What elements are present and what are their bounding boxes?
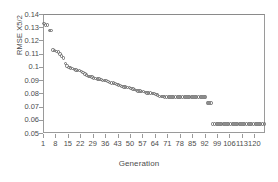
x-tick-mark xyxy=(254,134,255,138)
x-tick-mark xyxy=(205,134,206,138)
x-tick-mark xyxy=(217,134,218,138)
x-tick-mark xyxy=(242,134,243,138)
x-tick-mark xyxy=(167,134,168,138)
data-point xyxy=(62,56,65,59)
x-tick-mark xyxy=(155,134,156,138)
x-tick-mark xyxy=(142,134,143,138)
x-tick-mark xyxy=(180,134,181,138)
y-tick-label: 0.08 xyxy=(5,89,39,98)
y-tick-mark xyxy=(39,67,43,68)
y-tick-mark xyxy=(39,27,43,28)
y-tick-mark xyxy=(39,120,43,121)
y-tick-mark xyxy=(39,14,43,15)
data-point xyxy=(46,23,49,26)
y-tick-label: 0.12 xyxy=(5,36,39,45)
y-tick-mark xyxy=(39,93,43,94)
y-tick-label: 0.1 xyxy=(5,62,39,71)
x-tick-mark xyxy=(105,134,106,138)
x-tick-mark xyxy=(192,134,193,138)
x-tick-mark xyxy=(68,134,69,138)
x-tick-mark xyxy=(118,134,119,138)
y-tick-mark xyxy=(39,80,43,81)
x-tick-mark xyxy=(130,134,131,138)
x-tick-mark xyxy=(93,134,94,138)
plot-area xyxy=(43,14,265,133)
data-point xyxy=(209,101,212,104)
y-tick-label: 0.11 xyxy=(5,49,39,58)
y-tick-label: 0.05 xyxy=(5,129,39,138)
data-point xyxy=(204,95,207,98)
y-tick-mark xyxy=(39,40,43,41)
y-tick-label: 0.06 xyxy=(5,115,39,124)
y-tick-mark xyxy=(39,54,43,55)
x-tick-mark xyxy=(80,134,81,138)
data-point xyxy=(49,29,52,32)
data-point xyxy=(263,122,266,125)
x-tick-mark xyxy=(229,134,230,138)
y-tick-label: 0.14 xyxy=(5,10,39,19)
y-tick-label: 0.13 xyxy=(5,23,39,32)
y-tick-label: 0.09 xyxy=(5,76,39,85)
y-tick-label: 0.07 xyxy=(5,102,39,111)
x-axis-label: Generation xyxy=(0,159,278,168)
x-tick-mark xyxy=(43,134,44,138)
chart-container: RMSE X5/2 0.050.060.070.080.090.10.110.1… xyxy=(0,0,278,182)
y-tick-mark xyxy=(39,107,43,108)
x-tick-label: 120 xyxy=(243,139,265,149)
x-tick-mark xyxy=(55,134,56,138)
